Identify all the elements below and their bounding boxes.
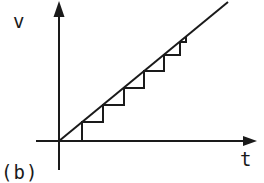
staircase-approximation — [82, 37, 186, 141]
diagram-canvas — [0, 0, 264, 183]
panel-label: (b) — [1, 163, 38, 182]
x-axis-label: t — [240, 150, 251, 169]
velocity-time-diagram: v t (b) — [0, 0, 264, 183]
x-axis-arrowhead-icon — [243, 136, 257, 146]
y-axis-arrowhead-icon — [54, 1, 65, 17]
y-axis-label: v — [13, 12, 24, 31]
